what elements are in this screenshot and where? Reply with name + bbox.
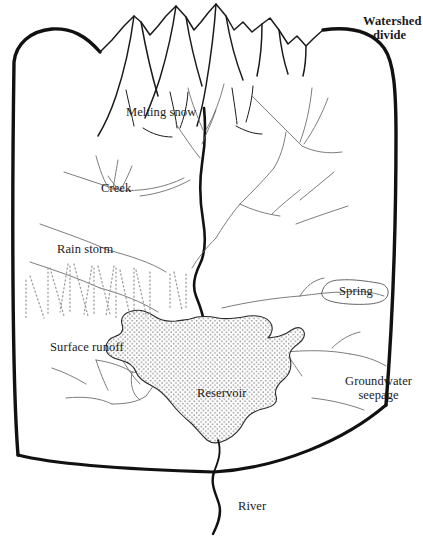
label-rain-storm: Rain storm — [57, 243, 113, 256]
label-melting-snow: Melting snow — [126, 106, 196, 119]
river-outlet-below-divide — [213, 440, 220, 534]
watershed-illustration — [0, 0, 423, 547]
label-watershed-divide: Watershed divide — [363, 14, 422, 42]
watershed-diagram: Watershed divide Melting snow Creek Rain… — [0, 0, 423, 547]
label-surface-runoff: Surface runoff — [50, 341, 124, 354]
label-groundwater-seepage: Groundwater seepage — [345, 374, 412, 402]
stippled-reservoir-polygon — [106, 310, 304, 443]
label-reservoir: Reservoir — [197, 387, 247, 400]
dotted-rain-streaks — [26, 264, 186, 318]
label-river: River — [238, 500, 266, 513]
watershed-divide-line-1: Watershed — [363, 14, 422, 28]
groundwater-line-1: Groundwater — [345, 374, 412, 388]
groundwater-line-2: seepage — [345, 388, 412, 402]
label-creek: Creek — [101, 182, 131, 195]
watershed-divide-line-2: divide — [363, 28, 422, 42]
label-spring: Spring — [339, 285, 373, 298]
